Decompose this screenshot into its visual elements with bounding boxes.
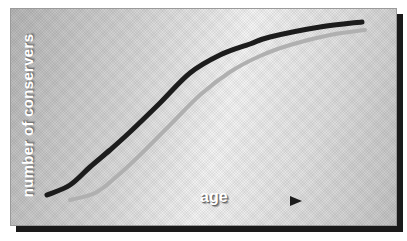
y-axis-label: number of conservers: [19, 31, 36, 201]
arrow-head-icon: [290, 196, 302, 206]
x-axis-label: age: [200, 188, 228, 206]
main-curve: [47, 22, 362, 195]
